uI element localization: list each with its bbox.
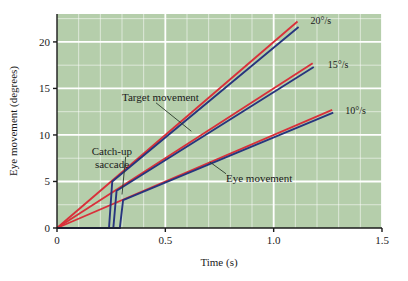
- chart-annotation: Target movement: [122, 91, 199, 103]
- chart-annotation: Catch-up: [92, 145, 133, 157]
- y-tick-label: 0: [45, 222, 51, 234]
- chart-annotation: saccade: [95, 158, 129, 170]
- x-tick-label: 1.5: [375, 234, 389, 246]
- y-tick-label: 10: [39, 129, 51, 141]
- y-tick-label: 15: [39, 82, 51, 94]
- x-tick-label: 1.0: [267, 234, 281, 246]
- speed-label: 15°/s: [328, 59, 349, 70]
- speed-label: 10°/s: [345, 105, 366, 116]
- chart-annotation: Eye movement: [226, 172, 292, 184]
- y-axis-label: Eye movement (degrees): [7, 66, 20, 176]
- x-tick-label: 0: [54, 234, 60, 246]
- y-tick-label: 5: [45, 175, 51, 187]
- figure-eye-movement-chart: 05101520 00.51.01.5 20°/s15°/s10°/s Targ…: [0, 0, 408, 281]
- x-tick-label: 0.5: [158, 234, 172, 246]
- chart-canvas: 05101520 00.51.01.5 20°/s15°/s10°/s Targ…: [0, 0, 408, 281]
- x-axis-label: Time (s): [200, 256, 238, 269]
- speed-label: 20°/s: [311, 15, 332, 26]
- y-tick-label: 20: [39, 36, 51, 48]
